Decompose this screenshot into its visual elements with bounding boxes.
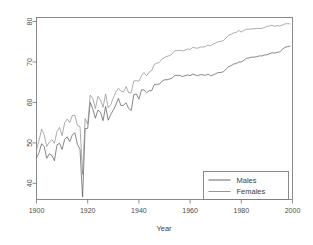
x-tick-label: 1920 [80,207,96,214]
x-tick-label: 2000 [285,207,301,214]
y-tick-label: 40 [26,179,33,187]
x-axis-title: Year [156,224,172,233]
y-tick-label: 60 [26,98,33,106]
x-tick-label: 1940 [131,207,147,214]
y-tick-label: 70 [26,58,33,66]
chart-background [0,0,313,245]
chart-figure: 4050607080 190019201940196019802000 Year… [0,0,313,245]
x-tick-label: 1900 [29,207,45,214]
legend-label-males[interactable]: Males [237,176,257,185]
x-tick-label: 1960 [182,207,198,214]
chart-legend[interactable]: MalesFemales [204,172,289,200]
x-tick-label: 1980 [234,207,250,214]
y-tick-label: 80 [26,18,33,26]
life-expectancy-line-chart: 4050607080 190019201940196019802000 Year… [0,0,313,245]
legend-label-females[interactable]: Females [237,187,266,196]
y-tick-label: 50 [26,139,33,147]
